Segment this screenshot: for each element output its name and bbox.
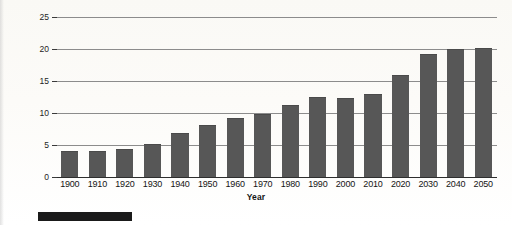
y-tick-label-15: 15	[40, 76, 49, 86]
gridline-0	[56, 177, 497, 178]
x-tick-label-1900: 1900	[56, 179, 84, 189]
x-tick-label-1920: 1920	[111, 179, 139, 189]
y-tick-label-25: 25	[40, 12, 49, 22]
x-axis-ticks-group: 1900191019201930194019501960197019801990…	[56, 179, 497, 192]
chart-figure: Percentage of Population 0510152025 1900…	[0, 0, 512, 225]
bar-1950	[199, 125, 216, 177]
bar-1940	[171, 133, 188, 177]
bar-2010	[364, 94, 381, 177]
x-tick-label-2010: 2010	[359, 179, 387, 189]
y-tick-mark-0	[52, 177, 57, 178]
x-tick-label-2030: 2030	[414, 179, 442, 189]
scan-artifact-bar	[38, 212, 132, 221]
bar-1910	[89, 151, 106, 177]
x-tick-label-2040: 2040	[442, 179, 470, 189]
bar-2050	[475, 48, 492, 177]
bar-1920	[116, 149, 133, 177]
x-tick-label-1950: 1950	[194, 179, 222, 189]
x-tick-label-2020: 2020	[387, 179, 415, 189]
y-tick-label-20: 20	[40, 44, 49, 54]
x-tick-label-1940: 1940	[166, 179, 194, 189]
bar-1980	[282, 105, 299, 177]
plot-area: 0510152025	[56, 17, 497, 177]
x-axis-title: Year	[0, 192, 512, 202]
bar-1970	[254, 114, 271, 177]
bar-1960	[227, 118, 244, 177]
y-tick-label-10: 10	[40, 108, 49, 118]
bar-2040	[447, 49, 464, 177]
bar-1990	[309, 97, 326, 177]
bar-2020	[392, 75, 409, 177]
x-tick-label-1960: 1960	[221, 179, 249, 189]
bar-1900	[61, 151, 78, 177]
bars-group	[56, 17, 497, 177]
x-tick-label-1910: 1910	[84, 179, 112, 189]
x-tick-label-1930: 1930	[139, 179, 167, 189]
y-tick-label-0: 0	[44, 172, 49, 182]
x-tick-label-2050: 2050	[469, 179, 497, 189]
x-tick-label-1990: 1990	[304, 179, 332, 189]
x-tick-label-1980: 1980	[277, 179, 305, 189]
x-tick-label-1970: 1970	[249, 179, 277, 189]
bar-2030	[420, 54, 437, 177]
y-tick-label-5: 5	[44, 140, 49, 150]
bar-2000	[337, 98, 354, 177]
bar-1930	[144, 144, 161, 177]
x-tick-label-2000: 2000	[332, 179, 360, 189]
